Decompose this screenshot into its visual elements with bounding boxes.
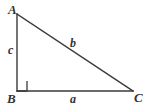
side-label-b: b: [70, 37, 76, 49]
hypotenuse-line-b: [17, 14, 133, 91]
vertex-label-b: B: [7, 92, 16, 105]
vertex-label-a: A: [8, 3, 17, 16]
side-label-c: c: [8, 44, 13, 56]
right-triangle-figure: A B C c b a: [0, 0, 148, 107]
right-angle-marker-icon: [17, 81, 27, 91]
triangle-drawing: [0, 0, 148, 107]
side-label-a: a: [70, 93, 76, 105]
vertex-label-c: C: [134, 91, 143, 104]
